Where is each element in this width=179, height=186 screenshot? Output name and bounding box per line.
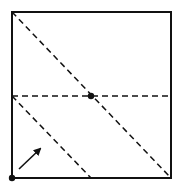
fold-diagram <box>0 0 179 186</box>
corner-point <box>9 175 15 181</box>
center-point <box>88 93 94 99</box>
fold-arrow-icon <box>19 149 40 169</box>
lower-diagonal-fold-line <box>12 96 91 178</box>
